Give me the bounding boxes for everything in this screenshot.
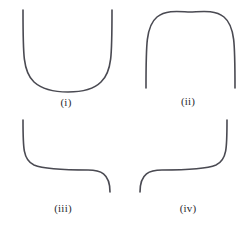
curve-path-iii [23,120,110,192]
curves-illustration [0,0,247,227]
panel-label-iii: (iii) [54,202,72,214]
curve-path-iv [140,120,227,192]
curve-path-i [23,10,112,92]
figure-canvas: (i) (ii) (iii) (iv) [0,0,247,227]
curve-path-ii [146,11,235,88]
panel-label-i: (i) [61,96,72,108]
panel-label-iv: (iv) [180,202,197,214]
panel-label-ii: (ii) [181,95,195,107]
